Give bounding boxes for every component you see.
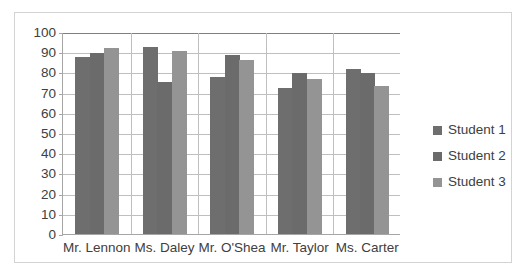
x-axis-label: Mr. O'Shea [198,241,265,255]
y-axis-tick [59,195,63,196]
y-axis-tick [59,154,63,155]
x-axis-label: Mr. Taylor [270,241,328,255]
bar[interactable] [346,69,361,234]
y-axis-tick [59,235,63,236]
bar-group [278,33,321,234]
y-axis-tick-label: 0 [48,228,56,242]
legend-item-label: Student 3 [448,175,506,189]
y-axis-tick [59,33,63,34]
bar[interactable] [278,88,293,234]
category-separator [333,33,334,234]
legend-item[interactable]: Student 2 [433,143,506,169]
bar[interactable] [143,47,158,234]
bar[interactable] [210,77,225,234]
y-axis-tick-label: 100 [33,26,56,40]
x-axis-label: Mr. Lennon [63,241,131,255]
legend-item-label: Student 2 [448,149,506,163]
y-axis-tick-label: 20 [41,188,56,202]
y-axis-tick [59,215,63,216]
bar[interactable] [104,48,119,234]
category-separator [266,33,267,234]
legend-swatch-icon [433,178,442,187]
y-axis-tick-label: 10 [41,208,56,222]
y-axis-tick [59,174,63,175]
legend-swatch-icon [433,152,442,161]
y-axis-tick [59,73,63,74]
category-separator [198,33,199,234]
plot-area: 0102030405060708090100 Mr. LennonMs. Dal… [62,33,400,235]
bar[interactable] [239,60,254,234]
y-axis-tick-label: 50 [41,127,56,141]
legend-swatch-icon [433,126,442,135]
y-axis-tick-label: 40 [41,147,56,161]
bar[interactable] [172,51,187,234]
y-axis-tick-label: 80 [41,67,56,81]
y-axis-tick [59,53,63,54]
legend-item[interactable]: Student 1 [433,117,506,143]
bar[interactable] [360,73,375,234]
y-axis-tick-label: 60 [41,107,56,121]
bar-group [210,33,253,234]
x-axis-label: Ms. Carter [336,241,399,255]
bar-group [143,33,186,234]
chart-frame: 0102030405060708090100 Mr. LennonMs. Dal… [14,12,512,263]
bar[interactable] [75,57,90,234]
y-axis-tick-label: 70 [41,87,56,101]
bar[interactable] [225,55,240,234]
y-axis-tick [59,94,63,95]
bar[interactable] [307,79,322,234]
bar-group [346,33,389,234]
y-axis-tick-label: 90 [41,46,56,60]
legend-item[interactable]: Student 3 [433,169,506,195]
y-axis-tick [59,114,63,115]
bar[interactable] [292,73,307,234]
y-axis-tick-label: 30 [41,168,56,182]
bar[interactable] [157,82,172,235]
chart-legend: Student 1Student 2Student 3 [433,117,506,195]
bar-group [75,33,118,234]
y-axis-tick [59,134,63,135]
bar[interactable] [90,53,105,234]
x-axis-label: Ms. Daley [134,241,194,255]
legend-item-label: Student 1 [448,123,506,137]
bar[interactable] [374,86,389,234]
category-separator [131,33,132,234]
